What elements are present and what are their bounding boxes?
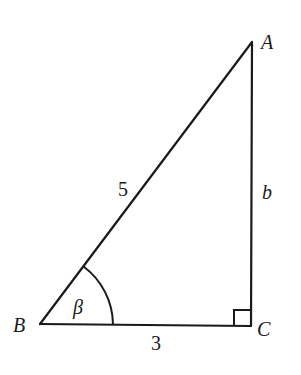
vertex-label-a: A (259, 31, 274, 53)
vertex-label-b: B (13, 314, 25, 336)
side-ac (251, 42, 252, 326)
vertex-label-c: C (257, 318, 271, 340)
hypotenuse-ab (40, 42, 252, 324)
triangle-diagram: A B C 5 b 3 β (0, 0, 301, 375)
side-bc (40, 324, 251, 326)
right-angle-marker (234, 310, 251, 326)
angle-label-beta: β (72, 296, 83, 319)
side-label-bc: 3 (151, 332, 161, 354)
side-label-b: b (262, 181, 272, 203)
side-label-hypotenuse: 5 (118, 178, 128, 200)
angle-beta-arc (84, 267, 114, 325)
